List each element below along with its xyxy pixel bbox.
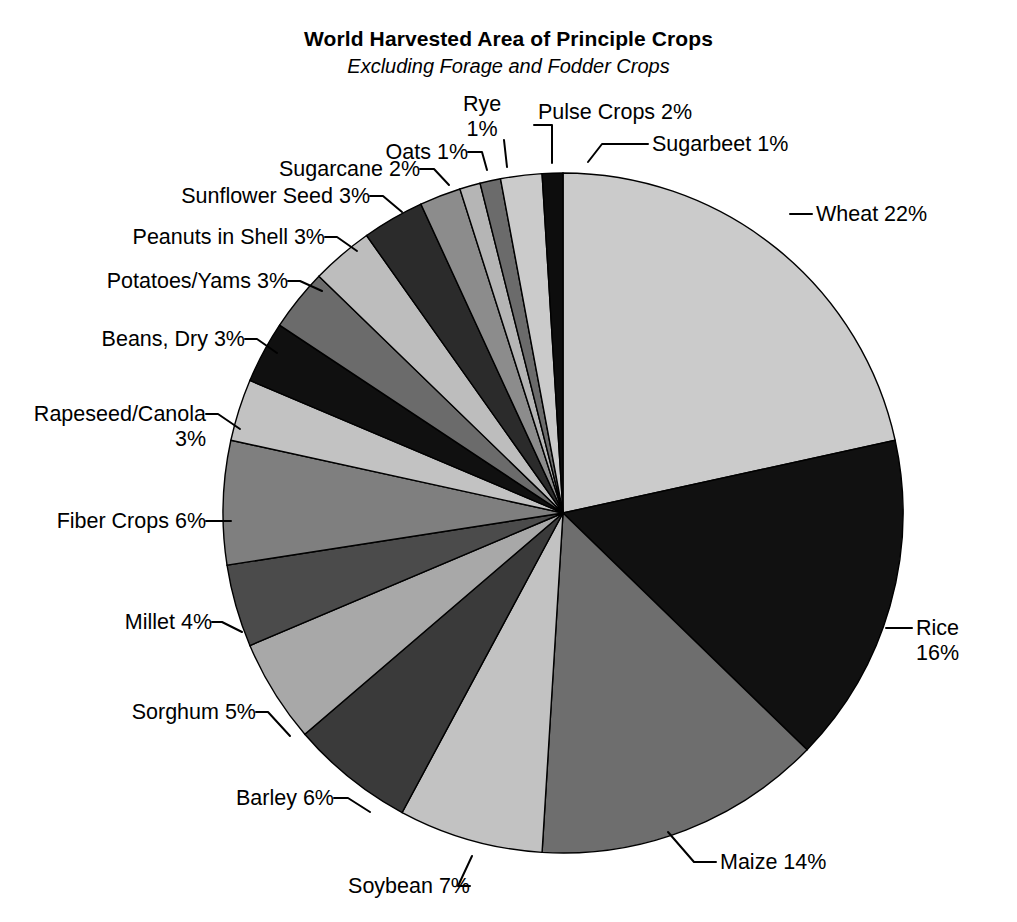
label-soybean: Soybean 7% [330, 874, 470, 899]
leader-line-pulse [534, 125, 552, 163]
label-rice-line1: Rice [916, 616, 959, 641]
leader-line-oats [468, 152, 487, 170]
label-oats: Oats 1% [288, 140, 468, 165]
label-wheat: Wheat 22% [816, 202, 927, 227]
leader-line-sorghum [256, 712, 290, 736]
label-potatoes-yams: Potatoes/Yams 3% [58, 269, 288, 294]
label-beans-dry: Beans, Dry 3% [45, 327, 245, 352]
leader-line-sugarcane [420, 169, 449, 185]
leader-line-millet [212, 622, 242, 632]
leader-line-maize [668, 832, 716, 862]
label-rice-line2: 16% [916, 641, 959, 666]
chart-page: World Harvested Area of Principle Crops … [0, 0, 1017, 922]
leader-line-barley [334, 798, 370, 812]
label-rye-line1: Rye [444, 92, 520, 117]
label-barley: Barley 6% [190, 786, 334, 811]
label-peanuts-in-shell: Peanuts in Shell 3% [75, 225, 325, 250]
leader-line-rye [504, 140, 507, 167]
label-sugarbeet: Sugarbeet 1% [652, 132, 788, 157]
pie-slice-group [223, 173, 903, 853]
label-maize: Maize 14% [720, 850, 826, 875]
label-fiber-crops: Fiber Crops 6% [26, 509, 206, 534]
leader-line-sunflower [370, 196, 402, 212]
label-millet: Millet 4% [84, 610, 212, 635]
label-rye-line2: 1% [444, 117, 520, 142]
label-sorghum: Sorghum 5% [98, 700, 256, 725]
leader-line-sugarbeet [588, 144, 648, 162]
label-rapeseed-line2: 3% [0, 427, 206, 452]
label-rapeseed-line1: Rapeseed/Canola [0, 402, 206, 427]
label-pulse-crops: Pulse Crops 2% [538, 100, 692, 125]
label-sunflower-seed: Sunflower Seed 3% [120, 184, 370, 209]
